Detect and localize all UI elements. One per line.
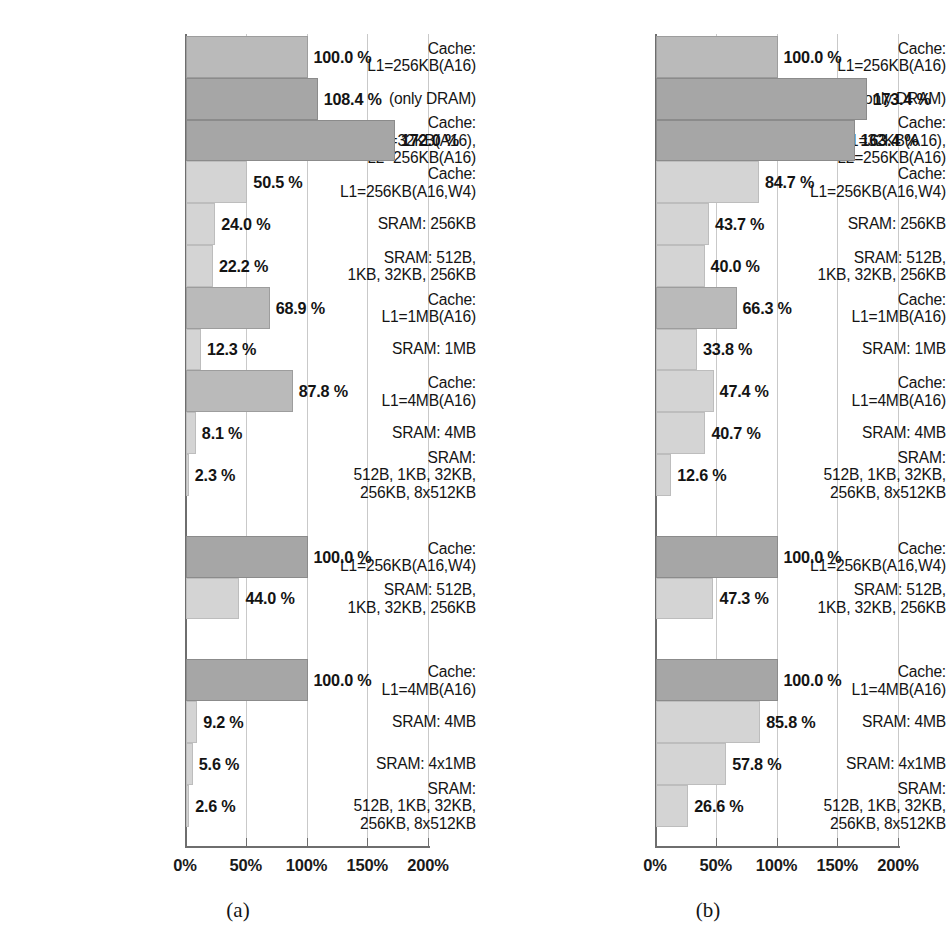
bar-value-label: 40.0 % — [711, 256, 760, 275]
bar — [186, 36, 308, 78]
bar-category-label: (only DRAM) — [291, 90, 476, 108]
bar-value-label: 87.8 % — [299, 382, 348, 401]
bar-row: Cache: L1=32KB(A16), L2=256KB(A16)172.0 … — [0, 120, 476, 162]
bar — [186, 245, 213, 287]
bar-row: Cache: L1=256KB(A16)100.0 % — [470, 36, 946, 78]
bar-value-label: 2.6 % — [195, 796, 235, 815]
bar-value-label: 100.0 % — [784, 47, 842, 66]
bar — [186, 701, 197, 743]
bar — [656, 36, 778, 78]
x-tick-200 — [898, 838, 899, 846]
bar-row: Cache: L1=256KB(A16,W4)84.7 % — [470, 161, 946, 203]
bar — [186, 287, 270, 329]
bar-row: Cache: L1=1MB(A16)68.9 % — [0, 287, 476, 329]
x-tick-label-200: 200% — [877, 856, 918, 875]
chart-panel-b: 0%50%100%150%200%Cache: L1=256KB(A16)100… — [470, 0, 946, 949]
figure-root: 0%50%100%150%200%Cache: L1=256KB(A16)100… — [0, 0, 952, 949]
bar-category-label: SRAM: 512B, 1KB, 32KB, 256KB — [761, 248, 946, 283]
bar-value-label: 2.3 % — [195, 465, 235, 484]
x-tick-50 — [716, 838, 717, 846]
bar-category-label: SRAM: 256KB — [291, 215, 476, 233]
bar-value-label: 57.8 % — [732, 754, 781, 773]
bar-row: Cache: L1=4MB(A16)47.4 % — [470, 370, 946, 412]
panel-caption-b: (b) — [470, 898, 946, 923]
bar-value-label: 100.0 % — [314, 47, 372, 66]
x-tick-label-150: 150% — [347, 856, 388, 875]
bar — [186, 743, 193, 785]
bar-category-label: SRAM: 4MB — [291, 713, 476, 731]
bar — [186, 659, 308, 701]
x-tick-label-100: 100% — [286, 856, 327, 875]
bar-category-label: SRAM: 512B, 1KB, 32KB, 256KB, 8x512KB — [291, 779, 476, 832]
bar-row: SRAM: 256KB43.7 % — [470, 203, 946, 245]
bar-category-label: SRAM: 512B, 1KB, 32KB, 256KB — [291, 248, 476, 283]
x-tick-0 — [655, 838, 656, 846]
bar-category-label: SRAM: 4x1MB — [761, 755, 946, 773]
bar-value-label: 8.1 % — [202, 424, 242, 443]
x-tick-150 — [837, 838, 838, 846]
bar — [186, 120, 395, 162]
bar-value-label: 40.7 % — [711, 424, 760, 443]
bar-row: SRAM: 4MB85.8 % — [470, 701, 946, 743]
bar — [656, 203, 709, 245]
bar-value-label: 24.0 % — [221, 215, 270, 234]
bar-row: SRAM: 256KB24.0 % — [0, 203, 476, 245]
bar-category-label: SRAM: 1MB — [291, 341, 476, 359]
bar — [656, 120, 855, 162]
x-axis-spine — [185, 846, 430, 848]
bar — [186, 454, 189, 496]
bar-value-label: 68.9 % — [276, 298, 325, 317]
bar-value-label: 47.3 % — [719, 589, 768, 608]
bar-row: SRAM: 512B, 1KB, 32KB, 256KB, 8x512KB2.6… — [0, 785, 476, 827]
x-tick-100 — [307, 838, 308, 846]
bar-category-label: SRAM: 512B, 1KB, 32KB, 256KB — [291, 581, 476, 616]
bar — [186, 412, 196, 454]
bar-value-label: 50.5 % — [253, 173, 302, 192]
bar-value-label: 85.8 % — [766, 713, 815, 732]
bar — [186, 161, 247, 203]
x-tick-50 — [246, 838, 247, 846]
bar-category-label: SRAM: 512B, 1KB, 32KB, 256KB, 8x512KB — [761, 779, 946, 832]
bar-row: SRAM: 512B, 1KB, 32KB, 256KB, 8x512KB2.3… — [0, 454, 476, 496]
bar-row: Cache: L1=32KB(A16), L2=256KB(A16)163.4 … — [470, 120, 946, 162]
bar-row: Cache: L1=256KB(A16,W4)100.0 % — [470, 536, 946, 578]
x-tick-150 — [367, 838, 368, 846]
plot-area-a: 0%50%100%150%200%Cache: L1=256KB(A16)100… — [0, 0, 476, 860]
bar-row: SRAM: 512B, 1KB, 32KB, 256KB40.0 % — [470, 245, 946, 287]
x-tick-100 — [777, 838, 778, 846]
bar-value-label: 66.3 % — [743, 298, 792, 317]
bar-row: SRAM: 512B, 1KB, 32KB, 256KB, 8x512KB12.… — [470, 454, 946, 496]
bar-value-label: 22.2 % — [219, 256, 268, 275]
bar-category-label: SRAM: 512B, 1KB, 32KB, 256KB, 8x512KB — [761, 449, 946, 502]
bar-value-label: 33.8 % — [703, 340, 752, 359]
bar — [656, 578, 713, 620]
bar-value-label: 100.0 % — [314, 547, 372, 566]
bar — [656, 454, 671, 496]
bar-row: Cache: L1=4MB(A16)87.8 % — [0, 370, 476, 412]
bar-row: SRAM: 1MB33.8 % — [470, 329, 946, 371]
bar-value-label: 100.0 % — [784, 547, 842, 566]
bar-row: SRAM: 512B, 1KB, 32KB, 256KB44.0 % — [0, 578, 476, 620]
x-tick-label-50: 50% — [700, 856, 732, 875]
bar-category-label: SRAM: 512B, 1KB, 32KB, 256KB — [761, 581, 946, 616]
bar-row: Cache: L1=256KB(A16,W4)50.5 % — [0, 161, 476, 203]
bar — [656, 701, 760, 743]
bar-row: SRAM: 1MB12.3 % — [0, 329, 476, 371]
bar — [186, 329, 201, 371]
bar-row: SRAM: 512B, 1KB, 32KB, 256KB47.3 % — [470, 578, 946, 620]
bar — [656, 412, 705, 454]
panel-caption-a: (a) — [0, 898, 476, 923]
bar-value-label: 163.4 % — [861, 131, 919, 150]
bar-row: SRAM: 4MB9.2 % — [0, 701, 476, 743]
bar-category-label: SRAM: 256KB — [761, 215, 946, 233]
x-axis-spine — [655, 846, 900, 848]
bar-value-label: 12.3 % — [207, 340, 256, 359]
bar-value-label: 5.6 % — [199, 754, 239, 773]
bar — [656, 743, 726, 785]
bar — [186, 536, 308, 578]
bar-row: SRAM: 512B, 1KB, 32KB, 256KB, 8x512KB26.… — [470, 785, 946, 827]
bar — [656, 161, 759, 203]
bar-value-label: 100.0 % — [314, 671, 372, 690]
bar-row: SRAM: 512B, 1KB, 32KB, 256KB22.2 % — [0, 245, 476, 287]
bar-value-label: 173.4 % — [873, 89, 931, 108]
